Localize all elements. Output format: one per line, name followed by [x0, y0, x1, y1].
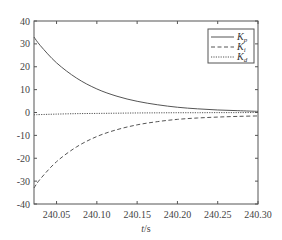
x-tick-label: 240.10: [83, 209, 111, 220]
x-tick-label: 240.20: [164, 209, 192, 220]
x-tick-label: 240.25: [204, 209, 232, 220]
y-tick-label: 20: [20, 61, 30, 72]
x-tick-label: 240.05: [43, 209, 71, 220]
y-tick-label: -10: [17, 130, 30, 141]
y-tick-label: 0: [25, 107, 30, 118]
x-axis-label: t/s: [141, 223, 151, 234]
legend: KpKiKd: [208, 29, 254, 64]
series-line-kd: [34, 113, 258, 115]
y-tick-label: -30: [17, 176, 30, 187]
y-tick-label: -40: [17, 199, 30, 210]
y-tick-label: 40: [20, 16, 30, 27]
y-tick-label: 10: [20, 84, 30, 95]
x-tick-label: 240.15: [123, 209, 151, 220]
y-tick-label: -20: [17, 153, 30, 164]
y-tick-label: 30: [20, 38, 30, 49]
series-line-ki: [34, 116, 258, 188]
chart: 403020100-10-20-30-40 240.05240.10240.15…: [0, 0, 282, 240]
x-tick-label: 240.30: [244, 209, 272, 220]
